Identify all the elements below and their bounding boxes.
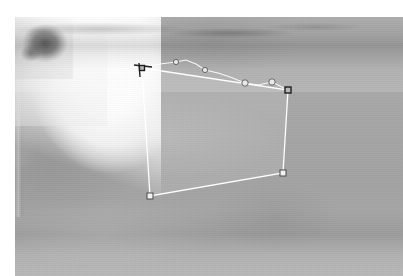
film-grain bbox=[15, 17, 403, 276]
image-editor-canvas bbox=[0, 0, 403, 276]
grayscale-photograph[interactable] bbox=[15, 17, 403, 276]
